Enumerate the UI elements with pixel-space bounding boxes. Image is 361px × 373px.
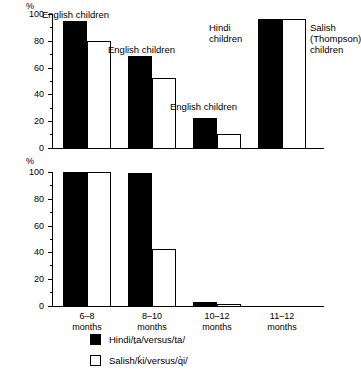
bottom-chart-tickmark-60 bbox=[48, 226, 53, 227]
top-chart-bar-hindi-8-10 bbox=[128, 56, 152, 149]
bottom-chart-minor-tick-30 bbox=[50, 265, 53, 266]
top-chart-minor-tick-50 bbox=[50, 81, 53, 82]
bottom-chart-minor-tick-50 bbox=[50, 239, 53, 240]
top-chart-minor-tick-30 bbox=[50, 108, 53, 109]
bottom-chart-y-unit: % bbox=[26, 157, 34, 166]
bottom-chart-minor-tick-90 bbox=[50, 185, 53, 186]
bottom-chart-xtick-10-12: 10–12 months bbox=[187, 311, 247, 332]
top-chart-minor-tick-90 bbox=[50, 27, 53, 28]
top-chart-minor-tick-10 bbox=[50, 134, 53, 135]
bottom-chart-bar-hindi-6-8 bbox=[63, 172, 87, 307]
top-chart-tickmark-0 bbox=[48, 148, 53, 149]
bottom-chart-ytick-40: 40 bbox=[22, 248, 44, 257]
bottom-chart-ytick-20: 20 bbox=[22, 275, 44, 284]
legend-item-salish: Salish/ḱi/versus/q̓i/ bbox=[90, 355, 188, 366]
top-chart-tickmark-40 bbox=[48, 94, 53, 95]
top-chart-ytick-0: 0 bbox=[22, 144, 44, 153]
legend-item-hindi: Hindi/ṭa/versus/ta/ bbox=[90, 334, 185, 345]
bottom-chart-xtick-11-12: 11–12 months bbox=[252, 311, 312, 332]
bottom-chart-tickmark-40 bbox=[48, 252, 53, 253]
legend-label-salish: Salish/ḱi/versus/q̓i/ bbox=[109, 355, 188, 366]
bottom-chart-tickmark-20 bbox=[48, 279, 53, 280]
bottom-chart-ytick-60: 60 bbox=[22, 222, 44, 231]
top-chart-bar-salish-10-12 bbox=[217, 134, 241, 149]
top-chart-minor-tick-70 bbox=[50, 54, 53, 55]
bottom-chart-tickmark-80 bbox=[48, 199, 53, 200]
bottom-chart-minor-tick-10 bbox=[50, 292, 53, 293]
legend-label-hindi: Hindi/ṭa/versus/ta/ bbox=[109, 334, 185, 345]
top-chart-tickmark-20 bbox=[48, 121, 53, 122]
bottom-chart-bar-salish-8-10 bbox=[152, 249, 176, 307]
top-chart-ytick-80: 80 bbox=[22, 37, 44, 46]
top-chart-annotation-english-8-10: English children bbox=[108, 44, 175, 55]
top-chart-tickmark-80 bbox=[48, 41, 53, 42]
top-chart-ytick-20: 20 bbox=[22, 117, 44, 126]
bottom-chart-minor-tick-70 bbox=[50, 212, 53, 213]
legend-swatch-hollow-icon bbox=[90, 355, 101, 366]
top-chart-annotation-hindi-children: Hindi children bbox=[209, 22, 242, 44]
top-chart-bar-salish-11-12 bbox=[282, 19, 306, 149]
bottom-chart-ytick-100: 100 bbox=[22, 168, 44, 177]
bottom-chart-tickmark-0 bbox=[48, 306, 53, 307]
bottom-chart-ytick-80: 80 bbox=[22, 195, 44, 204]
top-chart-ytick-60: 60 bbox=[22, 64, 44, 73]
top-chart-bar-hindi-10-12 bbox=[193, 118, 217, 149]
legend-swatch-solid-icon bbox=[90, 334, 101, 345]
bottom-chart-panel: % 100 80 60 40 20 0 6–8 bbox=[0, 155, 355, 335]
top-chart-tickmark-60 bbox=[48, 68, 53, 69]
bottom-chart-tickmark-100 bbox=[48, 172, 53, 173]
top-chart-ytick-100: 100 bbox=[22, 10, 44, 19]
top-chart-annotation-english-10-12: English children bbox=[170, 101, 237, 112]
top-chart-bar-hindi-6-8 bbox=[63, 21, 87, 149]
top-chart-bar-salish-8-10 bbox=[152, 78, 176, 149]
top-chart-bar-salish-6-8 bbox=[87, 41, 111, 149]
top-chart-annotation-salish-children: Salish (Thompson) children bbox=[310, 22, 361, 55]
bottom-chart-xtick-6-8: 6–8 months bbox=[57, 311, 117, 332]
bottom-chart-bar-hindi-8-10 bbox=[128, 173, 152, 307]
bottom-chart-xtick-8-10: 8–10 months bbox=[122, 311, 182, 332]
bottom-chart-bar-salish-6-8 bbox=[87, 172, 111, 307]
bottom-chart-bar-salish-10-12 bbox=[217, 304, 241, 307]
top-chart-ytick-40: 40 bbox=[22, 90, 44, 99]
bottom-chart-ytick-0: 0 bbox=[22, 302, 44, 311]
top-chart-bar-hindi-11-12 bbox=[258, 19, 282, 149]
bottom-chart-bar-hindi-10-12 bbox=[193, 302, 217, 307]
chart-legend: Hindi/ṭa/versus/ta/ Salish/ḱi/versus/q̓i… bbox=[0, 330, 355, 373]
top-chart-annotation-english-6-8: English children bbox=[42, 9, 109, 20]
top-chart-panel: % 100 80 60 40 20 0 bbox=[0, 0, 355, 160]
